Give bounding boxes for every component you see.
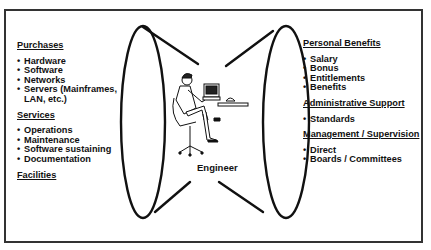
right-cone [219,26,309,218]
purchases-list: Hardware Software Networks Servers (Main… [17,57,132,105]
engineer-label: Engineer [197,162,238,173]
left-panel: Purchases Hardware Software Networks Ser… [17,41,132,186]
right-panel: Personal Benefits Salary Bonus Entitleme… [303,39,423,171]
left-cone [121,26,198,218]
list-item: Documentation [17,155,132,165]
services-list: Operations Maintenance Software sustaini… [17,126,132,164]
management-supervision-list: Direct Boards / Committees [303,146,423,165]
purchases-heading: Purchases [17,41,132,51]
personal-benefits-list: Salary Bonus Entitlements Benefits [303,55,423,93]
list-item: Servers (Mainframes, LAN, etc.) [17,85,132,104]
personal-benefits-heading: Personal Benefits [303,39,423,49]
list-item: Standards [303,115,423,125]
management-supervision-heading: Management / Supervision [303,130,423,140]
facilities-heading: Facilities [17,171,132,181]
engineer-at-desk-icon [173,74,248,157]
administrative-support-heading: Administrative Support [303,99,423,109]
administrative-support-list: Standards [303,115,423,125]
list-item: Benefits [303,83,423,93]
services-heading: Services [17,111,132,121]
list-item: Boards / Committees [303,155,423,165]
